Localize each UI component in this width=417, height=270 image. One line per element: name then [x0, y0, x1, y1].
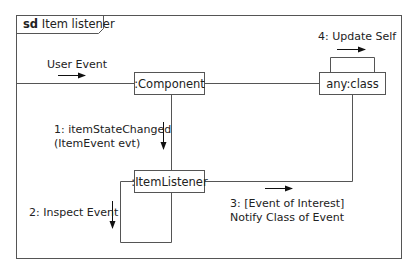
message-user-event-label: User Event: [47, 58, 107, 71]
object-component[interactable]: :Component: [134, 72, 205, 95]
object-component-label: :Component: [134, 77, 205, 91]
frame-name: Item listener: [42, 17, 115, 31]
message-3-line2: Notify Class of Event: [230, 211, 344, 224]
frame-keyword: sd: [23, 17, 38, 31]
object-anyclass[interactable]: any:class: [319, 72, 386, 95]
object-itemlistener[interactable]: :ItemListener: [134, 170, 205, 193]
message-3-line1: 3: [Event of Interest]: [230, 197, 344, 210]
message-1-line2: (ItemEvent evt): [54, 137, 140, 150]
object-itemlistener-label: :ItemListener: [131, 175, 207, 189]
object-anyclass-label: any:class: [326, 77, 379, 91]
message-1-line1: 1: itemStateChanged: [54, 123, 171, 136]
frame-title: sd Item listener: [23, 17, 115, 31]
message-2-label: 2: Inspect Event: [29, 206, 118, 219]
message-4-label: 4: Update Self: [318, 30, 396, 43]
link-itemlistener-anyclass: [205, 95, 353, 182]
self-link-anyclass: [331, 58, 375, 73]
